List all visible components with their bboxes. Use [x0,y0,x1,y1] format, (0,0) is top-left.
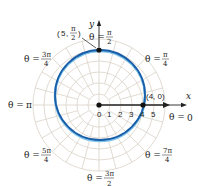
svg-text:θ =: θ = [24,150,40,160]
svg-text:θ =: θ = [24,54,40,64]
y-axis-label: y [88,19,95,29]
svg-text:4: 4 [165,156,170,164]
angle-label-pi-over-2: θ = π 2 [89,29,113,46]
angle-label-pi-over-4: θ = π 4 [145,51,169,68]
angle-label-5pi-over-4: θ = 5π 4 [24,147,51,164]
ray-arrowhead-icon [163,102,170,108]
svg-text:4: 4 [44,60,49,68]
svg-text:0: 0 [187,113,193,123]
svg-text:1: 1 [107,110,112,119]
angle-label-zero: θ = 0 [169,112,193,123]
svg-text:7π: 7π [163,147,172,155]
angle-label-pi: θ = π [8,100,32,110]
svg-text:5: 5 [151,110,156,119]
svg-text:3π: 3π [105,170,114,178]
svg-text:π: π [163,51,168,59]
angle-label-7pi-over-4: θ = 7π 4 [145,147,172,164]
point-4-0 [140,102,145,107]
x-axis-label: x [186,91,191,101]
svg-text:θ =: θ = [145,150,161,160]
svg-text:θ =: θ = [89,32,105,42]
svg-text:5π: 5π [42,147,51,155]
point-5-pi-over-2 [96,47,101,52]
svg-text:4: 4 [44,156,49,164]
angle-label-3pi-over-2: θ = 3π 2 [87,170,114,186]
y-arrowhead-icon [97,20,101,26]
svg-text:3: 3 [129,110,134,119]
svg-text:4: 4 [140,110,145,119]
svg-text:3π: 3π [42,51,51,59]
svg-text:2: 2 [107,38,111,46]
svg-text:2: 2 [118,110,123,119]
svg-text:): ) [78,29,81,38]
svg-text:π: π [26,100,32,110]
svg-text:(: ( [57,29,60,38]
svg-text:π: π [71,25,76,33]
point-label-4-0: (4, 0) [146,92,165,101]
svg-text:,: , [66,29,68,38]
polar-graph: y x 0 1 2 3 4 5 (4, 0) ( 5 , π 2 ) θ = π… [0,0,198,186]
polar-curve [55,50,145,140]
svg-text:2: 2 [71,34,75,42]
svg-text:0: 0 [97,110,102,119]
svg-text:θ =: θ = [8,100,24,110]
svg-text:2: 2 [107,180,111,186]
x-arrowhead-icon [181,103,187,107]
svg-text:θ =: θ = [87,173,103,183]
svg-text:θ =: θ = [169,112,185,122]
svg-text:θ =: θ = [145,54,161,64]
angle-label-3pi-over-4: θ = 3π 4 [24,51,51,68]
svg-text:π: π [107,29,112,37]
svg-text:4: 4 [163,60,168,68]
origin-point [96,102,101,107]
